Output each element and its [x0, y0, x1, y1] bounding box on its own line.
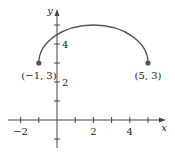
- endpoint-left-dot: [36, 60, 41, 65]
- x-tick-label-2: 2: [90, 126, 96, 137]
- point-label-left: (−1, 3): [21, 70, 56, 81]
- x-axis: −2 2 4 x: [8, 117, 167, 137]
- x-tick-label-4: 4: [127, 126, 133, 137]
- x-tick-label-neg2: −2: [13, 126, 28, 137]
- y-axis-label: y: [46, 5, 53, 16]
- y-tick-label-4: 4: [62, 39, 68, 50]
- endpoint-right-dot: [145, 60, 150, 65]
- y-tick-label-2: 2: [62, 77, 68, 88]
- point-label-right: (5, 3): [135, 70, 162, 81]
- x-axis-label: x: [161, 122, 167, 133]
- graph: −2 2 4 x 2 4 y (−1, 3) (5, 3): [0, 0, 175, 156]
- y-axis-arrow-icon: [55, 9, 60, 16]
